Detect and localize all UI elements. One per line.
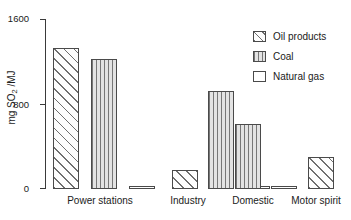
y-axis-title-post: /MJ [6, 70, 17, 89]
y-tick-label-0: 0 [24, 184, 29, 194]
bar-industry-coal [208, 91, 234, 189]
x-category-label-domestic: Domestic [218, 195, 288, 206]
y-tick-0: 0 [0, 184, 40, 194]
x-category-label-industry: Industry [153, 195, 223, 206]
chart-container: 1600 800 0 mg SO2 /MJ Power stations Ind… [0, 0, 351, 220]
y-tick-mark-800 [40, 104, 45, 105]
x-category-label-motor-spirit: Motor spirit [282, 195, 350, 206]
y-tick-mark-1600 [40, 19, 45, 20]
y-axis-title-sub: 2 [10, 89, 19, 93]
y-axis-title-pre: mg SO [6, 93, 17, 124]
legend-swatch-coal-icon [253, 51, 266, 62]
legend-label-coal: Coal [273, 51, 294, 62]
legend-item-oil-products: Oil products [253, 27, 326, 45]
legend-item-coal: Coal [253, 47, 326, 65]
legend-swatch-natural-gas-icon [253, 71, 266, 82]
y-tick-1600: 1600 [0, 14, 40, 24]
y-tick-mark-0 [40, 188, 45, 189]
bar-domestic-coal [235, 124, 261, 189]
bar-motor-spirit-oil-products [308, 157, 334, 189]
x-category-label-power-stations: Power stations [55, 195, 145, 206]
bar-power-stations-oil-products [53, 48, 79, 189]
legend-label-oil-products: Oil products [273, 31, 326, 42]
legend-swatch-oil-products-icon [253, 31, 266, 42]
bar-industry-oil-products [172, 170, 198, 189]
chart-legend: Oil products Coal Natural gas [253, 27, 326, 87]
bar-power-stations-coal [91, 59, 117, 189]
y-axis-title: mg SO2 /MJ [6, 50, 17, 146]
legend-label-natural-gas: Natural gas [273, 71, 324, 82]
bar-domestic-natural-gas [271, 186, 297, 189]
legend-item-natural-gas: Natural gas [253, 67, 326, 85]
bar-power-stations-natural-gas [129, 186, 155, 189]
y-tick-label-1600: 1600 [8, 14, 29, 24]
